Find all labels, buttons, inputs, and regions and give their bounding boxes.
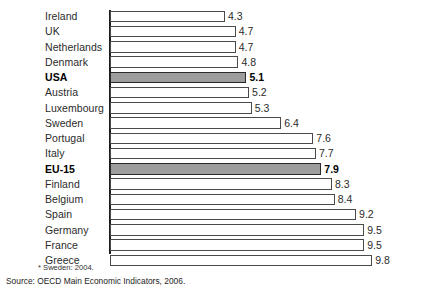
footnote-source: Source: OECD Main Economic Indicators, 2… bbox=[6, 276, 185, 286]
category-label: Denmark bbox=[45, 55, 105, 70]
bar-value-label: 9.2 bbox=[359, 207, 374, 222]
bar bbox=[110, 194, 335, 206]
bar bbox=[110, 148, 316, 160]
bar bbox=[110, 133, 313, 145]
category-label: Sweden bbox=[45, 116, 105, 131]
bar-row: Denmark4.8 bbox=[0, 55, 435, 70]
bar-value-label: 5.2 bbox=[252, 85, 267, 100]
category-label: Luxembourg bbox=[45, 101, 105, 116]
bar-row: EU-157.9 bbox=[0, 162, 435, 177]
bar bbox=[110, 224, 364, 236]
bar-row: Ireland4.3 bbox=[0, 9, 435, 24]
bar-value-label: 7.7 bbox=[319, 146, 334, 161]
bar-row: Portugal7.6 bbox=[0, 131, 435, 146]
category-label: Portugal bbox=[45, 131, 105, 146]
category-label: Spain bbox=[45, 207, 105, 222]
bar-value-label: 9.5 bbox=[367, 238, 382, 253]
category-label: Ireland bbox=[45, 9, 105, 24]
bar bbox=[110, 117, 281, 129]
bar-value-label: 9.5 bbox=[367, 223, 382, 238]
bar bbox=[110, 26, 236, 38]
bar bbox=[110, 239, 364, 251]
bar-value-label: 8.3 bbox=[335, 177, 350, 192]
bar bbox=[110, 209, 356, 221]
category-label: Finland bbox=[45, 177, 105, 192]
category-label: France bbox=[45, 238, 105, 253]
bar-row: Austria5.2 bbox=[0, 85, 435, 100]
bar-value-label: 7.6 bbox=[316, 131, 331, 146]
bar-row: Italy7.7 bbox=[0, 146, 435, 161]
plot-area: Ireland4.3UK4.7Netherlands4.7Denmark4.8U… bbox=[0, 9, 435, 254]
bar bbox=[110, 11, 225, 23]
bar-value-label: 5.1 bbox=[249, 70, 264, 85]
bar-value-label: 4.7 bbox=[239, 24, 254, 39]
bar-value-label: 8.4 bbox=[338, 192, 353, 207]
bar-row: Netherlands4.7 bbox=[0, 40, 435, 55]
bar-row: Sweden6.4 bbox=[0, 116, 435, 131]
category-label: Belgium bbox=[45, 192, 105, 207]
bar-row: Belgium8.4 bbox=[0, 192, 435, 207]
category-label: EU-15 bbox=[45, 162, 105, 177]
bar-row: Finland8.3 bbox=[0, 177, 435, 192]
footnote-note: * Sweden: 2004. bbox=[38, 263, 94, 272]
bar-value-label: 4.8 bbox=[241, 55, 256, 70]
bar bbox=[110, 41, 236, 53]
bar-value-label: 9.8 bbox=[375, 253, 390, 268]
category-label: USA bbox=[45, 70, 105, 85]
bar-value-label: 7.9 bbox=[324, 162, 339, 177]
bar bbox=[110, 178, 332, 190]
category-label: Austria bbox=[45, 85, 105, 100]
bar-row: Luxembourg5.3 bbox=[0, 101, 435, 116]
bar bbox=[110, 56, 238, 68]
bar bbox=[110, 87, 249, 99]
category-label: Germany bbox=[45, 223, 105, 238]
bar bbox=[110, 72, 246, 84]
bar-chart: Ireland4.3UK4.7Netherlands4.7Denmark4.8U… bbox=[0, 0, 435, 300]
bar-row: Spain9.2 bbox=[0, 207, 435, 222]
category-label: Netherlands bbox=[45, 40, 105, 55]
bar-row: UK4.7 bbox=[0, 24, 435, 39]
bar-row: France9.5 bbox=[0, 238, 435, 253]
bar bbox=[110, 102, 252, 114]
bar-row: Germany9.5 bbox=[0, 223, 435, 238]
category-label: Italy bbox=[45, 146, 105, 161]
bar-value-label: 6.4 bbox=[284, 116, 299, 131]
bar-value-label: 4.7 bbox=[239, 40, 254, 55]
bar-value-label: 4.3 bbox=[228, 9, 243, 24]
bar-value-label: 5.3 bbox=[255, 101, 270, 116]
category-label: UK bbox=[45, 24, 105, 39]
bar-row: USA5.1 bbox=[0, 70, 435, 85]
bar bbox=[110, 255, 372, 267]
bar bbox=[110, 163, 321, 175]
